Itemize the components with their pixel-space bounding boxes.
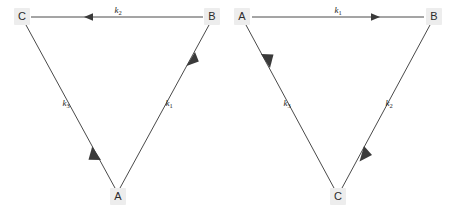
- diagram-canvas: k2 k1 k3 C B: [0, 0, 458, 210]
- rate-label-k1-right: k1: [334, 5, 341, 16]
- vertex-a-left: A: [110, 188, 126, 205]
- rate-subscript-3-right: 3: [287, 102, 290, 109]
- vertex-c-left: C: [14, 8, 30, 25]
- rate-label-k2-right: k2: [385, 98, 392, 109]
- edge-a-to-b: k1: [120, 25, 209, 188]
- rate-label-k3-left: k3: [62, 98, 69, 109]
- vertex-a-right: A: [234, 8, 250, 25]
- edge-c-to-a-right-arrowhead: [261, 54, 274, 68]
- edge-b-to-c: k2: [31, 5, 203, 21]
- rate-subscript-3-left: 3: [66, 102, 69, 109]
- rate-label-k2-left: k2: [114, 5, 121, 16]
- vertex-a-left-label: A: [114, 190, 122, 202]
- vertex-b-left-label: B: [208, 10, 215, 22]
- rate-label-k1-left: k1: [165, 98, 172, 109]
- left-triangle-group: k2 k1 k3 C B: [14, 5, 220, 205]
- edge-c-to-a-right: k3: [246, 25, 334, 188]
- rate-label-k3-right: k3: [283, 98, 290, 109]
- vertex-b-left: B: [204, 8, 220, 25]
- edge-b-to-c-right-arrowhead: [360, 146, 373, 162]
- edge-c-to-a-arrowhead: [89, 147, 102, 161]
- edge-a-to-b-right-arrowhead: [371, 13, 380, 21]
- rate-subscript-2-left: 2: [118, 9, 121, 16]
- vertex-b-right-label: B: [430, 10, 437, 22]
- vertex-a-right-label: A: [238, 10, 246, 22]
- right-triangle-group: k1 k2 k3 A B: [234, 5, 442, 205]
- vertex-c-left-label: C: [18, 10, 26, 22]
- rate-subscript-2-right: 2: [389, 102, 392, 109]
- rate-subscript-1-left: 1: [169, 102, 172, 109]
- vertex-c-right: C: [330, 188, 346, 205]
- edge-b-to-c-arrowhead: [84, 13, 93, 21]
- reaction-cycle-diagram: k2 k1 k3 C B: [0, 0, 458, 210]
- rate-subscript-1-right: 1: [338, 9, 341, 16]
- vertex-c-right-label: C: [334, 190, 342, 202]
- edge-b-to-c-right: k2: [342, 25, 430, 188]
- edge-a-to-b-right: k1: [252, 5, 424, 21]
- edge-c-to-a: k3: [26, 25, 115, 188]
- vertex-b-right: B: [426, 8, 442, 25]
- edge-c-to-a-line: [26, 25, 115, 188]
